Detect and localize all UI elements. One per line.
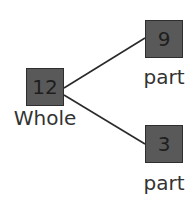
- part-label-2: part: [134, 171, 193, 195]
- part-label-1: part: [134, 65, 193, 89]
- whole-label: Whole: [10, 106, 80, 130]
- whole-value: 12: [32, 75, 57, 99]
- whole-box: 12: [26, 68, 64, 106]
- part-value-2: 3: [158, 132, 171, 156]
- connector-whole-to-part-1: [64, 38, 145, 88]
- part-box-1: 9: [145, 20, 183, 58]
- part-value-1: 9: [158, 27, 171, 51]
- part-box-2: 3: [145, 125, 183, 163]
